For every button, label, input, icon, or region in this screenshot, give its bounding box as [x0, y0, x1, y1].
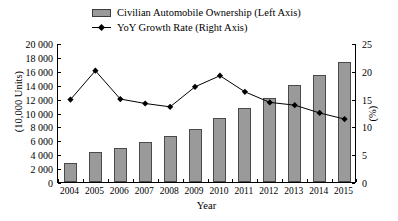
y-axis-left-tick-label: 16 000 — [26, 66, 54, 77]
y-axis-left-tick-label: 18 000 — [26, 52, 54, 63]
line-marker-2015 — [341, 116, 347, 122]
y-axis-left-tick-label: 0 — [48, 178, 53, 189]
y-axis-left-tick-label: 4 000 — [31, 150, 54, 161]
y-axis-right-tick-label: 25 — [362, 39, 372, 50]
legend-label-bar-series: Civilian Automobile Ownership (Left Axis… — [117, 7, 301, 18]
y-axis-left-ticks: 02 0004 0006 0008 00010 00012 00014 0001… — [0, 44, 56, 183]
y-axis-right-tick-label: 5 — [362, 150, 367, 161]
y-axis-left-tick-label: 12 000 — [26, 94, 54, 105]
y-axis-left-tick-label: 10 000 — [26, 108, 54, 119]
x-axis-tick-label-2011: 2011 — [235, 186, 254, 196]
y-axis-left-tick-label: 2 000 — [31, 164, 54, 175]
y-axis-left-tick-label: 6 000 — [31, 136, 54, 147]
chart-legend: Civilian Automobile Ownership (Left Axis… — [92, 6, 301, 34]
line-series-path — [58, 44, 357, 183]
line-marker-2011 — [242, 89, 248, 95]
x-axis-tick-label-2004: 2004 — [60, 186, 79, 196]
y-axis-left-tick-label: 20 000 — [26, 39, 54, 50]
y-axis-right-ticks: 0510152025 — [358, 44, 398, 183]
y-axis-left-tick-label: 8 000 — [31, 122, 54, 133]
y-axis-right-title: (%) — [367, 94, 378, 134]
plot-area — [57, 44, 356, 183]
line-marker-2012 — [267, 99, 273, 105]
legend-item-bar-series: Civilian Automobile Ownership (Left Axis… — [92, 6, 301, 19]
x-axis-tick-label-2007: 2007 — [135, 186, 154, 196]
legend-item-line-series: YoY Growth Rate (Right Axis) — [92, 21, 301, 34]
chart-container: Civilian Automobile Ownership (Left Axis… — [0, 0, 398, 221]
x-axis-tick-label-2009: 2009 — [185, 186, 204, 196]
x-axis-title: Year — [57, 200, 356, 211]
legend-line-marker-icon — [92, 24, 111, 32]
x-axis-tick-label-2012: 2012 — [259, 186, 278, 196]
x-axis-tick-label-2005: 2005 — [85, 186, 104, 196]
line-marker-2014 — [317, 110, 323, 116]
y-axis-right-tick-mark — [352, 183, 355, 184]
x-axis-ticks: 2004200520062007200820092010201120122013… — [57, 186, 356, 200]
y-axis-left-title: (10,000 Units) — [13, 62, 24, 142]
x-axis-tick-label-2013: 2013 — [284, 186, 303, 196]
y-axis-right-tick-label: 0 — [362, 178, 367, 189]
x-axis-tick-label-2010: 2010 — [209, 186, 228, 196]
y-axis-right-tick-label: 20 — [362, 66, 372, 77]
legend-label-line-series: YoY Growth Rate (Right Axis) — [117, 22, 247, 33]
line-marker-2013 — [292, 102, 298, 108]
legend-swatch-icon — [92, 9, 111, 17]
x-axis-tick-label-2014: 2014 — [309, 186, 328, 196]
x-axis-tick-label-2008: 2008 — [160, 186, 179, 196]
line-marker-2010 — [217, 73, 223, 79]
x-axis-tick-label-2006: 2006 — [110, 186, 129, 196]
x-axis-tick-label-2015: 2015 — [334, 186, 353, 196]
line-marker-2007 — [142, 100, 148, 106]
y-axis-left-tick-label: 14 000 — [26, 80, 54, 91]
y-axis-left-tick-mark — [58, 183, 61, 184]
